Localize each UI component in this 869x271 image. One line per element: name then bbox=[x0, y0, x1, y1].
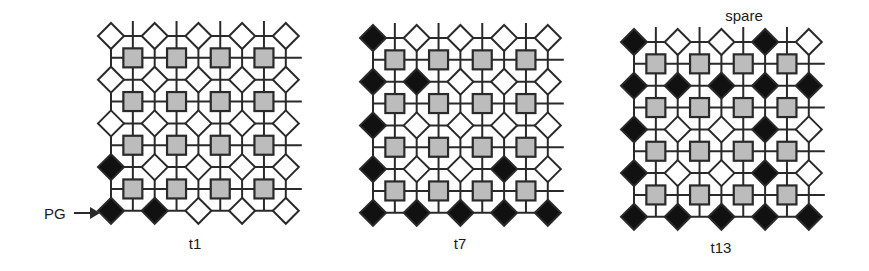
empty-diamond-node bbox=[229, 110, 255, 136]
gray-square-node bbox=[690, 98, 709, 117]
filled-diamond-node bbox=[752, 160, 778, 186]
filled-diamond-node bbox=[796, 73, 822, 99]
gray-square-node bbox=[385, 50, 404, 69]
empty-diamond-node bbox=[185, 154, 211, 180]
empty-diamond-node bbox=[185, 110, 211, 136]
gray-square-node bbox=[254, 179, 273, 198]
empty-diamond-node bbox=[535, 69, 561, 95]
gray-square-node bbox=[429, 94, 448, 113]
empty-diamond-node bbox=[708, 116, 734, 142]
gray-square-node bbox=[734, 142, 753, 161]
empty-diamond-node bbox=[404, 112, 430, 138]
filled-diamond-node bbox=[752, 29, 778, 55]
gray-square-node bbox=[254, 92, 273, 111]
gray-square-node bbox=[646, 185, 665, 204]
filled-diamond-node bbox=[404, 200, 430, 226]
empty-diamond-node bbox=[98, 110, 124, 136]
gray-square-node bbox=[777, 185, 796, 204]
gray-square-node bbox=[254, 48, 273, 67]
gray-square-node bbox=[777, 54, 796, 73]
empty-diamond-node bbox=[491, 69, 517, 95]
gray-square-node bbox=[516, 94, 535, 113]
filled-diamond-node bbox=[665, 204, 691, 230]
filled-diamond-node bbox=[98, 198, 124, 224]
gray-square-node bbox=[167, 92, 186, 111]
filled-diamond-node bbox=[752, 204, 778, 230]
panel-label-t1: t1 bbox=[189, 236, 202, 251]
filled-diamond-node bbox=[360, 25, 386, 51]
gray-square-node bbox=[167, 136, 186, 155]
filled-diamond-node bbox=[491, 156, 517, 182]
gray-square-node bbox=[734, 98, 753, 117]
empty-diamond-node bbox=[796, 116, 822, 142]
filled-diamond-node bbox=[708, 73, 734, 99]
filled-diamond-node bbox=[360, 69, 386, 95]
gray-square-node bbox=[690, 54, 709, 73]
diagram-canvas bbox=[0, 0, 869, 271]
filled-diamond-node bbox=[142, 198, 168, 224]
gray-square-node bbox=[516, 181, 535, 200]
gray-square-node bbox=[123, 92, 142, 111]
empty-diamond-node bbox=[229, 154, 255, 180]
filled-diamond-node bbox=[708, 204, 734, 230]
filled-diamond-node bbox=[752, 73, 778, 99]
gray-square-node bbox=[473, 181, 492, 200]
gray-square-node bbox=[385, 138, 404, 157]
filled-diamond-node bbox=[796, 204, 822, 230]
empty-diamond-node bbox=[98, 23, 124, 49]
gray-square-node bbox=[429, 50, 448, 69]
gray-square-node bbox=[646, 142, 665, 161]
filled-diamond-node bbox=[360, 112, 386, 138]
gray-square-node bbox=[777, 98, 796, 117]
gray-square-node bbox=[385, 94, 404, 113]
panel-label-t7: t7 bbox=[454, 236, 467, 251]
empty-diamond-node bbox=[229, 198, 255, 224]
empty-diamond-node bbox=[708, 29, 734, 55]
gray-square-node bbox=[211, 48, 230, 67]
empty-diamond-node bbox=[273, 67, 299, 93]
gray-square-node bbox=[123, 48, 142, 67]
gray-square-node bbox=[123, 179, 142, 198]
filled-diamond-node bbox=[621, 204, 647, 230]
empty-diamond-node bbox=[665, 160, 691, 186]
empty-diamond-node bbox=[708, 160, 734, 186]
gray-square-node bbox=[777, 142, 796, 161]
empty-diamond-node bbox=[273, 154, 299, 180]
filled-diamond-node bbox=[360, 200, 386, 226]
panel-label-t13: t13 bbox=[711, 240, 732, 255]
empty-diamond-node bbox=[796, 29, 822, 55]
empty-diamond-node bbox=[665, 29, 691, 55]
empty-diamond-node bbox=[185, 67, 211, 93]
gray-square-node bbox=[167, 179, 186, 198]
gray-square-node bbox=[734, 185, 753, 204]
gray-square-node bbox=[211, 136, 230, 155]
empty-diamond-node bbox=[404, 25, 430, 51]
empty-diamond-node bbox=[142, 154, 168, 180]
pg-label: PG bbox=[44, 206, 66, 221]
filled-diamond-node bbox=[98, 154, 124, 180]
gray-square-node bbox=[516, 50, 535, 69]
gray-square-node bbox=[123, 136, 142, 155]
empty-diamond-node bbox=[447, 112, 473, 138]
filled-diamond-node bbox=[621, 160, 647, 186]
empty-diamond-node bbox=[447, 69, 473, 95]
filled-diamond-node bbox=[752, 116, 778, 142]
filled-diamond-node bbox=[621, 29, 647, 55]
spare-label: spare bbox=[725, 8, 763, 23]
filled-diamond-node bbox=[535, 200, 561, 226]
empty-diamond-node bbox=[535, 112, 561, 138]
gray-square-node bbox=[473, 94, 492, 113]
gray-square-node bbox=[473, 138, 492, 157]
gray-square-node bbox=[211, 179, 230, 198]
empty-diamond-node bbox=[491, 25, 517, 51]
filled-diamond-node bbox=[491, 200, 517, 226]
filled-diamond-node bbox=[621, 116, 647, 142]
empty-diamond-node bbox=[185, 23, 211, 49]
empty-diamond-node bbox=[229, 67, 255, 93]
gray-square-node bbox=[211, 92, 230, 111]
empty-diamond-node bbox=[273, 198, 299, 224]
gray-square-node bbox=[734, 54, 753, 73]
empty-diamond-node bbox=[142, 110, 168, 136]
filled-diamond-node bbox=[665, 73, 691, 99]
filled-diamond-node bbox=[621, 73, 647, 99]
